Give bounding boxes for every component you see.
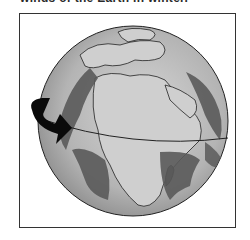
globe [38,26,228,216]
globe-illustration [0,0,250,240]
